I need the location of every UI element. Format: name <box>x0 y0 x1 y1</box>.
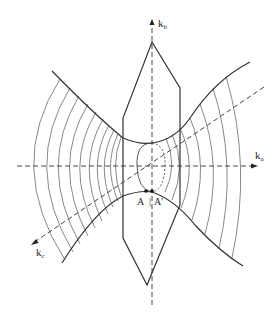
axis-ka: ka <box>17 149 265 169</box>
left-cross-section-arcs <box>34 79 121 260</box>
point-a-prime-label: A' <box>154 196 163 207</box>
axis-kc: kc <box>31 87 264 260</box>
svg-text:kc: kc <box>36 246 45 260</box>
point-separator: | <box>149 196 151 207</box>
fermi-surface-diagram: kb ka kc A | A' <box>0 0 279 315</box>
ka-arrow-icon <box>251 164 258 169</box>
svg-text:kb: kb <box>158 17 168 31</box>
neck-ellipse <box>137 143 165 192</box>
right-cross-section-arcs <box>165 76 241 258</box>
svg-text:ka: ka <box>255 149 265 163</box>
point-a-label: A <box>137 196 145 207</box>
hyperboloid-outline <box>52 62 250 266</box>
point-a-dot <box>144 189 148 193</box>
point-a-prime-dot <box>150 189 154 193</box>
kb-arrow-icon <box>150 19 155 25</box>
